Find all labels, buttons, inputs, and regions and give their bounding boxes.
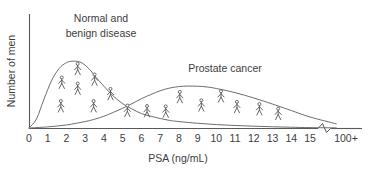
person-icon <box>198 99 204 112</box>
person-icon <box>218 90 224 103</box>
person-icon <box>75 82 81 95</box>
x-tick-label-1: 1 <box>45 132 51 144</box>
person-icon <box>58 100 64 113</box>
x-tick-label-5: 5 <box>120 132 126 144</box>
psa-distribution-figure: 0123456789101112131415100+ PSA (ng/mL) N… <box>0 0 368 179</box>
x-axis-title: PSA (ng/mL) <box>148 152 208 164</box>
person-head <box>164 105 167 108</box>
normal-benign-label-line2: benign disease <box>66 27 137 39</box>
person-head <box>92 100 95 103</box>
person-head <box>235 100 238 103</box>
x-tick-label-4: 4 <box>101 132 107 144</box>
y-axis-title: Number of men <box>5 35 17 108</box>
x-tick-label-2: 2 <box>64 132 70 144</box>
x-tick-label-11: 11 <box>230 132 241 144</box>
x-tick-label-14: 14 <box>285 132 297 144</box>
person-body <box>75 65 81 75</box>
person-head <box>76 62 79 65</box>
x-axis-tick-labels: 0123456789101112131415100+ <box>26 132 358 144</box>
person-body <box>75 85 81 95</box>
x-tick-label-3: 3 <box>82 132 88 144</box>
person-head <box>60 76 63 79</box>
person-body <box>91 76 97 86</box>
person-icon <box>163 105 169 118</box>
x-tick-label-15: 15 <box>304 132 316 144</box>
x-tick-label-9: 9 <box>195 132 201 144</box>
person-body <box>91 103 97 113</box>
x-tick-label-7: 7 <box>157 132 163 144</box>
person-body <box>234 103 240 113</box>
person-icon <box>124 104 130 117</box>
x-tick-label-13: 13 <box>267 132 279 144</box>
person-head <box>76 82 79 85</box>
x-tick-label-10: 10 <box>210 132 222 144</box>
person-head <box>178 90 181 93</box>
person-head <box>109 87 112 90</box>
person-icon <box>177 90 183 103</box>
prostate-cancer-label: Prostate cancer <box>188 62 262 74</box>
person-head <box>146 104 149 107</box>
person-head <box>59 100 62 103</box>
person-head <box>277 107 280 110</box>
person-head <box>93 73 96 76</box>
person-icon <box>75 62 81 75</box>
person-body <box>124 107 130 117</box>
person-body <box>218 93 224 103</box>
person-body <box>58 103 64 113</box>
person-icon <box>107 87 113 100</box>
x-tick-label-100plus: 100+ <box>334 132 358 144</box>
person-head <box>258 103 261 106</box>
person-icon <box>91 100 97 113</box>
person-head <box>220 90 223 93</box>
x-tick-label-0: 0 <box>26 132 32 144</box>
person-icon <box>91 73 97 86</box>
person-icon <box>59 76 65 89</box>
person-body <box>275 110 281 120</box>
normal-benign-label-line1: Normal and <box>74 12 128 24</box>
person-body <box>177 93 183 103</box>
person-body <box>198 102 204 112</box>
person-body <box>59 79 65 89</box>
x-tick-label-8: 8 <box>176 132 182 144</box>
person-body <box>256 106 262 116</box>
chart-canvas: 0123456789101112131415100+ PSA (ng/mL) N… <box>0 0 368 179</box>
x-tick-label-6: 6 <box>138 132 144 144</box>
person-head <box>126 104 129 107</box>
person-icon <box>256 103 262 116</box>
person-body <box>163 108 169 118</box>
person-head <box>200 99 203 102</box>
x-tick-label-12: 12 <box>248 132 260 144</box>
person-icon <box>275 107 281 120</box>
person-icon <box>234 100 240 113</box>
